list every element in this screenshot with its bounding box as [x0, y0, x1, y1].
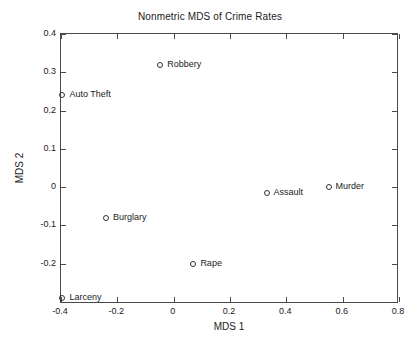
x-tick-mark-top: [174, 34, 175, 39]
y-tick-mark-right: [392, 187, 397, 188]
x-tick-label: -0.2: [109, 306, 125, 316]
y-tick-mark-right: [392, 225, 397, 226]
data-point-label: Rape: [200, 258, 222, 269]
y-tick-mark-right: [392, 72, 397, 73]
y-tick-mark: [61, 111, 66, 112]
x-tick-label: 0.8: [392, 306, 405, 316]
y-tick-label: -0.1: [40, 219, 56, 229]
x-tick-label: 0.4: [279, 306, 292, 316]
y-tick-label: -0.2: [40, 258, 56, 268]
x-tick-mark-top: [399, 34, 400, 39]
mds-scatter-figure: Nonmetric MDS of Crime Rates RobberyAuto…: [0, 0, 420, 350]
circle-marker-icon: [103, 215, 109, 221]
x-tick-mark: [343, 297, 344, 302]
data-point-label: Burglary: [113, 212, 147, 223]
chart-title: Nonmetric MDS of Crime Rates: [0, 11, 420, 22]
y-tick-mark: [61, 264, 66, 265]
x-tick-mark: [230, 297, 231, 302]
x-axis-label: MDS 1: [60, 321, 398, 332]
y-tick-label: 0: [51, 181, 56, 191]
y-tick-mark: [61, 34, 66, 35]
data-point-label: Assault: [274, 187, 304, 198]
data-point-label: Larceny: [69, 292, 101, 303]
x-tick-label: 0.6: [335, 306, 348, 316]
circle-marker-icon: [190, 261, 196, 267]
x-tick-mark: [174, 297, 175, 302]
y-tick-mark-right: [392, 149, 397, 150]
x-tick-mark: [399, 297, 400, 302]
x-tick-label: 0.2: [223, 306, 236, 316]
x-tick-mark-top: [117, 34, 118, 39]
y-tick-label: 0.3: [43, 66, 56, 76]
plot-area: RobberyAuto TheftMurderAssaultBurglaryRa…: [60, 33, 398, 303]
y-tick-label: 0.1: [43, 143, 56, 153]
y-tick-mark: [61, 149, 66, 150]
y-axis-label: MDS 2: [14, 153, 25, 184]
circle-marker-icon: [59, 92, 65, 98]
circle-marker-icon: [59, 295, 65, 301]
x-tick-label: -0.4: [52, 306, 68, 316]
x-tick-mark: [117, 297, 118, 302]
y-tick-mark: [61, 187, 66, 188]
y-tick-label: 0.2: [43, 105, 56, 115]
x-tick-mark-top: [343, 34, 344, 39]
y-tick-mark-right: [392, 111, 397, 112]
circle-marker-icon: [326, 184, 332, 190]
y-tick-mark-right: [392, 34, 397, 35]
data-point-label: Auto Theft: [69, 89, 110, 100]
y-tick-mark-right: [392, 264, 397, 265]
data-point-label: Robbery: [167, 59, 201, 70]
x-tick-mark-top: [286, 34, 287, 39]
x-tick-mark: [286, 297, 287, 302]
circle-marker-icon: [264, 190, 270, 196]
y-tick-label: 0.4: [43, 28, 56, 38]
x-tick-mark-top: [230, 34, 231, 39]
x-tick-label: 0: [170, 306, 175, 316]
data-point-label: Murder: [336, 181, 365, 192]
y-tick-mark: [61, 225, 66, 226]
y-tick-mark: [61, 72, 66, 73]
circle-marker-icon: [157, 62, 163, 68]
